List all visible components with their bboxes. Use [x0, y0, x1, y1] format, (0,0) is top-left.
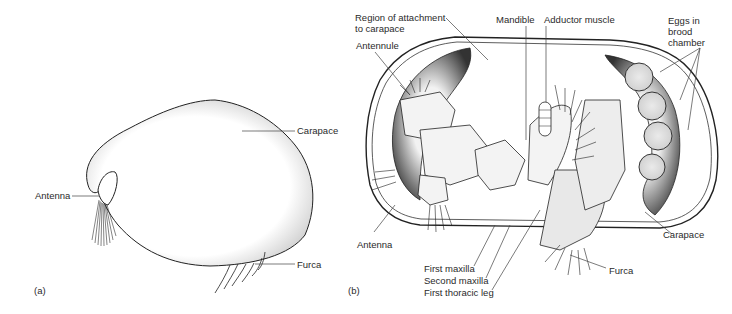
label-first-maxilla: First maxilla — [424, 263, 475, 274]
label-antenna-a: Antenna — [35, 190, 70, 201]
label-eggs-1: Eggs in — [668, 15, 700, 26]
panel-a-tag: (a) — [34, 285, 46, 296]
panel-b-tag: (b) — [348, 285, 360, 296]
label-eggs-2: brood — [668, 26, 692, 37]
label-antenna-b: Antenna — [357, 239, 392, 250]
label-furca-b: Furca — [609, 265, 633, 276]
label-region-attachment-2: to carapace — [355, 23, 405, 34]
label-furca-a: Furca — [297, 259, 321, 270]
label-carapace-a: Carapace — [297, 125, 338, 136]
label-first-thoracic-leg: First thoracic leg — [424, 287, 494, 298]
panel-a-drawing — [72, 100, 313, 293]
label-eggs-3: chamber — [668, 37, 705, 48]
ostracod-anatomy-figure: (a) Carapace Antenna Furca (b) Region of… — [0, 0, 732, 314]
adductor-muscle-shape — [539, 102, 551, 136]
label-mandible: Mandible — [496, 14, 535, 25]
label-carapace-b: Carapace — [663, 229, 704, 240]
label-second-maxilla: Second maxilla — [424, 275, 488, 286]
label-region-attachment-1: Region of attachment — [355, 12, 445, 23]
panel-b-drawing — [366, 18, 718, 290]
label-adductor-muscle: Adductor muscle — [544, 14, 615, 25]
label-antennule: Antennule — [356, 40, 399, 51]
